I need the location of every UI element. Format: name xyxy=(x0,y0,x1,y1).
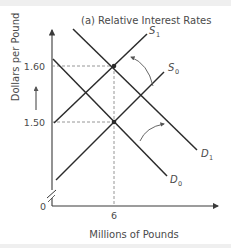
chart-canvas: (a) Relative Interest Rates Dollars per … xyxy=(0,0,231,248)
svg-text:0: 0 xyxy=(178,180,182,188)
svg-text:1: 1 xyxy=(209,154,213,162)
equilibrium-point-new xyxy=(112,64,117,69)
label-s0: S 0 xyxy=(168,62,179,76)
x-tick-6: 6 xyxy=(111,210,117,221)
label-d1: D 1 xyxy=(201,148,213,162)
y-tick-1-50: 1.50 xyxy=(24,117,45,128)
y-axis xyxy=(47,30,56,206)
supply-curve-s0 xyxy=(56,72,164,180)
chart-title: (a) Relative Interest Rates xyxy=(81,15,211,26)
x-axis-label: Millions of Pounds xyxy=(89,229,178,240)
origin-label: 0 xyxy=(40,201,46,212)
y-axis-label: Dollars per Pound xyxy=(10,13,21,102)
demand-curve-d1 xyxy=(73,29,197,150)
svg-text:0: 0 xyxy=(175,68,179,76)
supply-curve-s1 xyxy=(54,34,147,123)
svg-text:D: D xyxy=(170,174,178,185)
svg-text:S: S xyxy=(168,62,175,73)
label-s1: S 1 xyxy=(149,25,160,39)
guide-lines xyxy=(52,66,114,206)
shift-arrow-demand-icon xyxy=(140,124,164,141)
label-d0: D 0 xyxy=(170,174,182,188)
svg-text:D: D xyxy=(201,148,209,159)
svg-text:S: S xyxy=(149,25,156,36)
axis-break-icon xyxy=(47,190,56,198)
shift-arrow-supply-icon xyxy=(131,57,153,86)
y-tick-1-60: 1.60 xyxy=(24,61,45,72)
svg-text:1: 1 xyxy=(156,31,160,39)
equilibrium-point-initial xyxy=(112,120,117,125)
